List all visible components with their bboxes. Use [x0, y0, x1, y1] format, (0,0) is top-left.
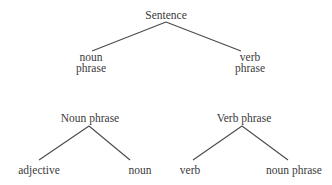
node-noun: noun — [129, 165, 152, 176]
node-noun-phrase-leaf: noun phrase — [266, 165, 322, 176]
node-sentence: Sentence — [145, 10, 187, 21]
node-label-line-2: phrase — [76, 63, 106, 74]
edge-sentence-to-noun-phrase — [92, 22, 166, 51]
node-label: noun phrase — [266, 165, 322, 176]
node-adjective: adjective — [18, 165, 60, 176]
edge-sentence-to-verb-phrase — [166, 22, 241, 51]
node-label: noun — [129, 165, 152, 176]
node-label: Verb phrase — [217, 113, 272, 124]
edge-noun-phrase-to-adjective — [39, 126, 89, 160]
node-label: Sentence — [145, 10, 187, 21]
node-label: Noun phrase — [61, 113, 119, 124]
node-noun-phrase-root: Noun phrase — [61, 113, 119, 124]
edge-verb-phrase-to-verb — [193, 126, 242, 160]
node-label: adjective — [18, 165, 60, 176]
syntax-tree-diagram: Sentence noun phrase verb phrase Noun ph… — [0, 0, 332, 185]
node-verb: verb — [180, 165, 200, 176]
node-label-line-2: phrase — [235, 63, 265, 74]
edge-noun-phrase-to-noun — [89, 126, 130, 160]
node-noun-phrase-child: noun phrase — [76, 52, 106, 74]
tree-edges — [0, 0, 332, 185]
edge-verb-phrase-to-noun-phrase — [242, 126, 288, 160]
node-verb-phrase-child: verb phrase — [235, 52, 265, 74]
node-label: verb — [180, 165, 200, 176]
node-verb-phrase-root: Verb phrase — [217, 113, 272, 124]
